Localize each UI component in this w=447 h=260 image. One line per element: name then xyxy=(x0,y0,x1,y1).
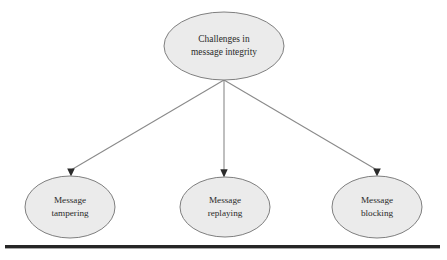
connector-root-to-child-3 xyxy=(224,80,381,177)
arrowhead-icon-1 xyxy=(67,168,75,176)
node-child-2-label-line1: Message xyxy=(209,195,241,205)
node-child-3-label-line1: Message xyxy=(361,195,393,205)
diagram-canvas: Challenges in message integrity Message … xyxy=(0,0,447,260)
node-root-shape[interactable] xyxy=(164,12,284,80)
connector-line-1 xyxy=(71,80,224,170)
node-child-1-label-line2: tampering xyxy=(51,208,89,218)
node-child-message-replaying[interactable]: Message replaying xyxy=(180,177,270,237)
bottom-divider-rule xyxy=(5,245,440,248)
connector-line-3 xyxy=(224,80,377,170)
node-child-3-label-line2: blocking xyxy=(361,208,394,218)
node-root-label-line2: message integrity xyxy=(191,47,257,57)
node-child-1-label-line1: Message xyxy=(54,195,86,205)
node-child-message-blocking[interactable]: Message blocking xyxy=(332,176,422,238)
node-child-3-shape[interactable] xyxy=(332,176,422,238)
connector-root-to-child-1 xyxy=(67,80,224,177)
node-root-label-line1: Challenges in xyxy=(198,34,250,44)
connector-root-to-child-2 xyxy=(220,80,227,178)
node-root[interactable]: Challenges in message integrity xyxy=(164,12,284,80)
arrowhead-icon-2 xyxy=(220,169,227,177)
node-child-1-shape[interactable] xyxy=(25,176,115,238)
node-child-2-label-line2: replaying xyxy=(208,208,243,218)
arrowhead-icon-3 xyxy=(373,168,381,176)
node-child-2-shape[interactable] xyxy=(180,177,270,237)
diagram-svg: Challenges in message integrity Message … xyxy=(0,0,447,260)
node-child-message-tampering[interactable]: Message tampering xyxy=(25,176,115,238)
